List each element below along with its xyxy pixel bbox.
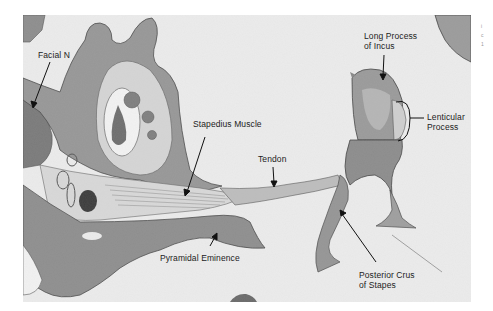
label-line: Process bbox=[427, 122, 465, 132]
label-stapedius-muscle: Stapedius Muscle bbox=[193, 119, 262, 129]
label-line: Lenticular bbox=[427, 112, 465, 122]
label-lenticular-process: Lenticular Process bbox=[427, 112, 465, 132]
label-pyramidal-eminence: Pyramidal Eminence bbox=[160, 253, 240, 263]
label-long-process-of-incus: Long Process of Incus bbox=[364, 31, 417, 51]
label-facial-n: Facial N bbox=[38, 50, 70, 60]
histology-figure bbox=[0, 0, 493, 311]
label-tendon: Tendon bbox=[258, 154, 287, 164]
label-line: Posterior Crus bbox=[359, 270, 415, 280]
edge-mark: 1 bbox=[481, 40, 484, 49]
edge-mark: c bbox=[481, 31, 484, 40]
label-line: Long Process bbox=[364, 31, 417, 41]
label-line: of Stapes bbox=[359, 280, 415, 290]
edge-mark: i bbox=[481, 22, 484, 31]
page-edge-marks: i c 1 bbox=[481, 22, 484, 49]
label-line: of Incus bbox=[364, 41, 417, 51]
label-posterior-crus-of-stapes: Posterior Crus of Stapes bbox=[359, 270, 415, 290]
